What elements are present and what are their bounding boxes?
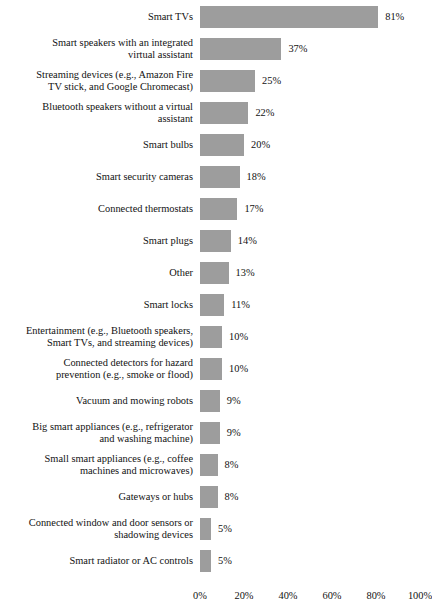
bar <box>200 70 255 92</box>
bar-row: Gateways or hubs8% <box>0 481 428 513</box>
bar-row: Streaming devices (e.g., Amazon Fire TV … <box>0 65 428 97</box>
bar-row: Connected detectors for hazard preventio… <box>0 353 428 385</box>
bar <box>200 102 248 124</box>
bar <box>200 166 240 188</box>
category-label: Smart plugs <box>0 235 193 247</box>
bar-value-label: 8% <box>225 459 239 471</box>
category-label: Smart security cameras <box>0 171 193 183</box>
category-label: Connected window and door sensors or sha… <box>0 517 193 541</box>
bar-value-label: 22% <box>255 107 274 119</box>
category-label: Smart locks <box>0 299 193 311</box>
bar-track: 10% <box>200 326 420 348</box>
bar-track: 81% <box>200 6 420 28</box>
bar-row: Small smart appliances (e.g., coffee mac… <box>0 449 428 481</box>
bar-value-label: 8% <box>225 491 239 503</box>
bar-row: Big smart appliances (e.g., refrigerator… <box>0 417 428 449</box>
x-axis: 0%20%40%60%80%100% <box>200 589 420 603</box>
bar-value-label: 5% <box>218 555 232 567</box>
bar-row: Smart TVs81% <box>0 1 428 33</box>
bar-row: Smart locks11% <box>0 289 428 321</box>
bar-row: Entertainment (e.g., Bluetooth speakers,… <box>0 321 428 353</box>
category-label: Smart TVs <box>0 11 193 23</box>
bar-value-label: 9% <box>227 427 241 439</box>
bar <box>200 550 211 572</box>
category-label: Small smart appliances (e.g., coffee mac… <box>0 453 193 477</box>
bar-value-label: 37% <box>288 43 307 55</box>
bar <box>200 198 237 220</box>
bar <box>200 134 244 156</box>
bar-value-label: 20% <box>251 139 270 151</box>
bar <box>200 486 218 508</box>
bar-track: 14% <box>200 230 420 252</box>
bar <box>200 326 222 348</box>
category-label: Smart bulbs <box>0 139 193 151</box>
category-label: Smart radiator or AC controls <box>0 555 193 567</box>
bar-value-label: 9% <box>227 395 241 407</box>
bar-row: Smart plugs14% <box>0 225 428 257</box>
category-label: Connected detectors for hazard preventio… <box>0 357 193 381</box>
bar-value-label: 10% <box>229 363 248 375</box>
x-axis-tick-100: 100% <box>408 589 432 603</box>
bar-track: 13% <box>200 262 420 284</box>
x-axis-tick-80: 80% <box>366 589 385 603</box>
bar-value-label: 10% <box>229 331 248 343</box>
bar <box>200 518 211 540</box>
bar-value-label: 11% <box>231 299 250 311</box>
bar-track: 37% <box>200 38 420 60</box>
bar-row: Smart radiator or AC controls5% <box>0 545 428 577</box>
category-label: Gateways or hubs <box>0 491 193 503</box>
bar <box>200 38 281 60</box>
bar-value-label: 25% <box>262 75 281 87</box>
bar-value-label: 17% <box>244 203 263 215</box>
chart-rows: Smart TVs81%Smart speakers with an integ… <box>0 1 428 577</box>
bar-track: 8% <box>200 454 420 476</box>
bar <box>200 358 222 380</box>
bar-track: 11% <box>200 294 420 316</box>
bar <box>200 6 378 28</box>
bar-track: 8% <box>200 486 420 508</box>
bar-track: 5% <box>200 518 420 540</box>
bar-value-label: 81% <box>385 11 404 23</box>
bar-row: Connected thermostats17% <box>0 193 428 225</box>
category-label: Entertainment (e.g., Bluetooth speakers,… <box>0 325 193 349</box>
bar-row: Smart speakers with an integrated virtua… <box>0 33 428 65</box>
bar-row: Smart bulbs20% <box>0 129 428 161</box>
bar-track: 17% <box>200 198 420 220</box>
category-label: Connected thermostats <box>0 203 193 215</box>
x-axis-tick-60: 60% <box>322 589 341 603</box>
bar <box>200 422 220 444</box>
bar-track: 10% <box>200 358 420 380</box>
category-label: Vacuum and mowing robots <box>0 395 193 407</box>
bar-track: 22% <box>200 102 420 124</box>
category-label: Streaming devices (e.g., Amazon Fire TV … <box>0 69 193 93</box>
x-axis-tick-20: 20% <box>234 589 253 603</box>
bar <box>200 294 224 316</box>
bar <box>200 454 218 476</box>
x-axis-tick-0: 0% <box>193 589 207 603</box>
category-label: Bluetooth speakers without a virtual ass… <box>0 101 193 125</box>
bar-track: 9% <box>200 422 420 444</box>
bar-row: Smart security cameras18% <box>0 161 428 193</box>
bar-track: 20% <box>200 134 420 156</box>
bar-track: 9% <box>200 390 420 412</box>
bar-value-label: 5% <box>218 523 232 535</box>
bar-track: 18% <box>200 166 420 188</box>
bar <box>200 230 231 252</box>
x-axis-tick-40: 40% <box>278 589 297 603</box>
bar-row: Bluetooth speakers without a virtual ass… <box>0 97 428 129</box>
bar-value-label: 18% <box>247 171 266 183</box>
bar-track: 25% <box>200 70 420 92</box>
bar <box>200 262 229 284</box>
bar-value-label: 14% <box>238 235 257 247</box>
bar-track: 5% <box>200 550 420 572</box>
bar-value-label: 13% <box>236 267 255 279</box>
bar-row: Other13% <box>0 257 428 289</box>
category-label: Other <box>0 267 193 279</box>
bar <box>200 390 220 412</box>
bar-row: Connected window and door sensors or sha… <box>0 513 428 545</box>
bar-row: Vacuum and mowing robots9% <box>0 385 428 417</box>
category-label: Smart speakers with an integrated virtua… <box>0 37 193 61</box>
category-label: Big smart appliances (e.g., refrigerator… <box>0 421 193 445</box>
